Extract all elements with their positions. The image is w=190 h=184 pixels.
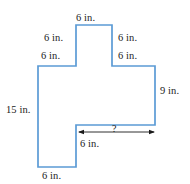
label-top-edge: 6 in. [76,13,95,24]
label-notch-left-lower: 6 in. [41,51,60,62]
dimension-arrow-head-left [78,130,84,135]
dimension-arrow-head-right [149,130,155,135]
label-notch-right-lower: 6 in. [118,51,137,62]
label-bottom-edge: 6 in. [42,171,61,182]
label-notch-left-upper: 6 in. [44,33,63,44]
label-notch-right-upper: 6 in. [118,33,137,44]
geometry-figure: 6 in. 6 in. 6 in. 6 in. 6 in. 9 in. 15 i… [0,0,190,184]
label-bottom-inner: 6 in. [80,139,99,150]
unknown-dimension-arrow [78,130,155,135]
label-left-side: 15 in. [6,105,31,116]
label-right-side: 9 in. [160,86,179,97]
label-unknown-length: ? [112,124,116,134]
